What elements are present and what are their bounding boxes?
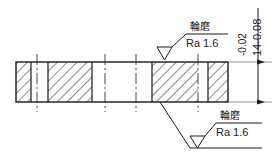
surface-finish-leader-bottom-b — [205, 123, 216, 136]
surface-finish-process-top: 輪磨 — [190, 22, 210, 32]
dimension-tolerance-upper: -0.02 — [238, 33, 248, 56]
hatch-block-3 — [152, 62, 198, 102]
surface-finish-process-bottom: 輪磨 — [220, 111, 240, 121]
hatch-block-1 — [16, 62, 31, 102]
surface-finish-callout-bottom — [160, 102, 262, 148]
dimension-nominal-with-lower-tolerance: 14-0.08 — [252, 19, 263, 56]
surface-finish-roughness-top: Ra 1.6 — [186, 38, 218, 49]
height-dimension — [228, 8, 272, 102]
surface-finish-leader-bottom-a — [160, 102, 190, 148]
technical-drawing-canvas — [0, 0, 276, 166]
surface-finish-roughness-bottom: Ra 1.6 — [216, 127, 248, 138]
surface-finish-triangle-bottom — [190, 136, 205, 148]
hatch-block-4 — [208, 62, 228, 102]
surface-finish-leader-top — [172, 34, 186, 47]
hatch-block-2 — [48, 62, 92, 102]
surface-finish-triangle-top — [157, 47, 172, 60]
